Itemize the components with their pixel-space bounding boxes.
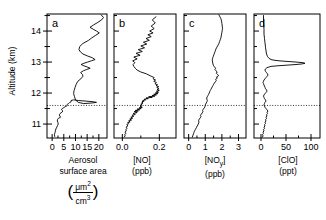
panel-b: 0.00.2b <box>114 14 176 152</box>
panel-d-xlabel: [ClO] (ppt) <box>250 155 326 176</box>
panel-d-xlabel-line2: (ppt) <box>279 166 296 176</box>
x-tick-label: 2 <box>219 142 224 152</box>
units-num-exp: 2 <box>87 180 91 187</box>
x-tick-label: 100 <box>303 142 318 152</box>
panel-label-a: a <box>52 17 59 29</box>
panel-a-data-line <box>54 15 103 137</box>
x-tick-label: 3 <box>236 142 241 152</box>
panel-a: 1112131405101520a <box>31 14 107 152</box>
panel-label-d: d <box>259 17 265 29</box>
y-tick-label: 14 <box>31 26 41 36</box>
x-tick-label: 1 <box>203 142 208 152</box>
y-tick-label: 11 <box>32 119 41 129</box>
panel-d: 050100d <box>254 14 320 152</box>
units-numerator: μm2 <box>73 179 93 193</box>
panel-c-xlabel-line2: (ppb) <box>205 169 225 179</box>
y-axis-label: Altitude (km) <box>7 36 17 106</box>
panel-c-xlabel-line1b: ] <box>223 155 225 165</box>
panel-c-xlabel-line1: [NO <box>205 155 220 165</box>
panel-b-xlabel-line2: (ppb) <box>132 166 152 176</box>
x-tick-label: 20 <box>94 142 104 152</box>
units-num-text: μm <box>75 182 87 192</box>
panel-b-frame <box>114 14 176 138</box>
panel-b-xlabel-line1: [NO] <box>133 155 150 165</box>
panel-a-xlabel-line2: surface area <box>59 166 106 176</box>
profile-plot-svg: 1112131405101520a0.00.2b0123c050100d <box>0 0 326 160</box>
panel-d-data-line <box>263 16 306 138</box>
x-tick-label: 0.2 <box>153 142 166 152</box>
units-den-text: cm <box>76 196 87 206</box>
panel-c-xlabel: [NOy] (ppb) <box>177 155 253 180</box>
x-tick-label: 0.0 <box>116 142 129 152</box>
units-denominator: cm3 <box>73 193 93 206</box>
panel-b-data-line <box>124 17 159 137</box>
x-tick-label: 0 <box>50 142 55 152</box>
units-den-exp: 3 <box>87 194 91 201</box>
x-tick-label: 10 <box>70 142 80 152</box>
y-tick-label: 13 <box>31 57 41 67</box>
x-tick-label: 0 <box>186 142 191 152</box>
panel-label-b: b <box>119 17 125 29</box>
units-close-paren: ) <box>93 182 99 201</box>
panel-label-c: c <box>189 17 195 29</box>
figure-root: Altitude (km) 1112131405101520a0.00.2b01… <box>0 0 326 220</box>
x-tick-label: 0 <box>258 142 263 152</box>
x-tick-label: 50 <box>281 142 291 152</box>
panel-a-xlabel-line1: Aerosol <box>69 155 98 165</box>
panel-c: 0123c <box>184 14 246 152</box>
x-tick-label: 5 <box>61 142 66 152</box>
panel-b-xlabel: [NO] (ppb) <box>104 155 180 176</box>
panel-c-data-line <box>192 15 222 137</box>
panel-a-frame <box>47 14 107 138</box>
x-tick-label: 15 <box>82 142 92 152</box>
panel-a-units: (μm2cm3) <box>30 179 136 206</box>
panel-d-xlabel-line1: [ClO] <box>278 155 297 165</box>
panel-c-frame <box>184 14 246 138</box>
y-tick-label: 12 <box>31 88 41 98</box>
units-fraction: μm2cm3 <box>73 179 93 206</box>
